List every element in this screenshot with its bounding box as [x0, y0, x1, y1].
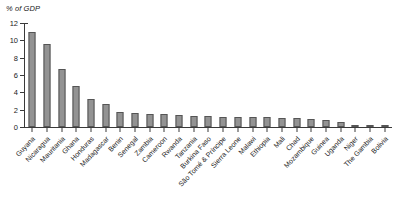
bar-group: Mozambique — [304, 23, 319, 127]
bar — [58, 69, 65, 127]
bar — [161, 114, 168, 127]
x-axis-tick-mark — [193, 128, 194, 132]
bar-group: Rwanda — [172, 23, 187, 127]
bar — [352, 125, 359, 127]
y-axis-tick-label: 12 — [10, 19, 18, 28]
y-axis-tick-mark — [20, 110, 24, 111]
bar-series: GuyanaNicaraguaMauritaniaGhanaHondurasMa… — [25, 23, 392, 127]
bar — [249, 117, 256, 127]
x-axis-tick-mark — [149, 128, 150, 132]
bar — [220, 117, 227, 127]
bar-group: Ghana — [69, 23, 84, 127]
bar-group: Uganda — [333, 23, 348, 127]
bar-group: Niger — [348, 23, 363, 127]
bar — [278, 118, 285, 127]
bar — [73, 86, 80, 127]
x-axis-tick-mark — [384, 128, 385, 132]
y-axis-tick-label: 2 — [14, 105, 18, 114]
bar-group: Benin — [113, 23, 128, 127]
x-axis-tick-mark — [135, 128, 136, 132]
bar-group: Bolivia — [377, 23, 392, 127]
x-axis-tick-mark — [281, 128, 282, 132]
bar — [132, 113, 139, 127]
bar — [117, 112, 124, 127]
x-axis-tick-mark — [325, 128, 326, 132]
bar-group: Guinea — [319, 23, 334, 127]
bar — [88, 99, 95, 127]
bar — [337, 122, 344, 127]
x-axis-tick-mark — [237, 128, 238, 132]
x-axis-tick-mark — [252, 128, 253, 132]
y-axis-tick-label: 8 — [14, 53, 18, 62]
bar-group: Ethiopia — [260, 23, 275, 127]
bar-group: Mali — [275, 23, 290, 127]
bar — [381, 125, 388, 127]
bar-group: Mauritania — [54, 23, 69, 127]
y-axis-tick-label: 4 — [14, 88, 18, 97]
bar — [190, 116, 197, 127]
bar — [205, 116, 212, 127]
y-axis-tick-mark — [20, 127, 24, 128]
bar-group: Tanzania — [186, 23, 201, 127]
bar-group: Cameroon — [157, 23, 172, 127]
x-axis-tick-mark — [61, 128, 62, 132]
y-axis-unit-label: % of GDP — [6, 4, 40, 13]
x-axis-tick-mark — [105, 128, 106, 132]
y-axis-tick-label: 10 — [10, 36, 18, 45]
bar — [322, 120, 329, 127]
y-axis-tick-mark — [20, 58, 24, 59]
x-axis-tick-mark — [296, 128, 297, 132]
bar — [176, 115, 183, 127]
bar — [293, 118, 300, 127]
y-axis-tick-label: 6 — [14, 71, 18, 80]
bar-group: Zambia — [142, 23, 157, 127]
bar-group: Burkina Faso — [201, 23, 216, 127]
bar-group: Madagascar — [98, 23, 113, 127]
bar-group: Senegal — [128, 23, 143, 127]
bar — [366, 125, 373, 127]
bar-group: Chad — [289, 23, 304, 127]
y-axis-tick-mark — [20, 23, 24, 24]
x-axis-tick-label: Bolivia — [384, 120, 398, 140]
bar-chart: % of GDP 024681012 GuyanaNicaraguaMaurit… — [0, 0, 398, 203]
x-axis-tick-mark — [369, 128, 370, 132]
bar — [264, 117, 271, 127]
bar — [29, 32, 36, 127]
bar-group: Sierra Leone — [231, 23, 246, 127]
plot-area: 024681012 GuyanaNicaraguaMauritaniaGhana… — [24, 23, 392, 127]
y-axis-tick-mark — [20, 75, 24, 76]
bar — [102, 104, 109, 127]
bar — [308, 119, 315, 127]
bar-group: Nicaragua — [40, 23, 55, 127]
x-axis-tick-mark — [340, 128, 341, 132]
bar-group: Guyana — [25, 23, 40, 127]
x-axis-tick-mark — [47, 128, 48, 132]
bar-group: Honduras — [84, 23, 99, 127]
y-axis-tick-mark — [20, 40, 24, 41]
bar — [146, 114, 153, 127]
bar — [234, 117, 241, 127]
y-axis-tick-mark — [20, 92, 24, 93]
bar — [44, 44, 51, 127]
y-axis-tick-label: 0 — [14, 123, 18, 132]
bar-group: São Tomé & Príncipe — [216, 23, 231, 127]
x-axis-tick-mark — [91, 128, 92, 132]
bar-group: Malawi — [245, 23, 260, 127]
bar-group: The Gambia — [363, 23, 378, 127]
